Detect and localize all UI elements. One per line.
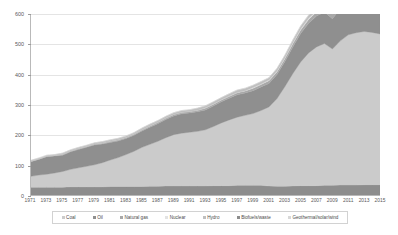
legend-label: Nuclear [170,215,186,220]
x-tick-label: 1981 [104,198,115,204]
x-tick-label: 1999 [247,198,258,204]
x-tick-label: 1973 [40,198,51,204]
y-tick-label: 600 [0,11,24,17]
legend-label: Biofuels/waste [241,215,271,220]
x-tick-label: 1983 [120,198,131,204]
y-tick-label: 400 [0,72,24,78]
legend-label: Hydro [207,215,219,220]
stacked-area-series [31,14,380,195]
x-tick-label: 1985 [136,198,147,204]
legend-item[interactable]: Natural gas [120,215,148,220]
legend-item[interactable]: Biofuels/waste [237,215,271,220]
y-tick-label: 200 [0,132,24,138]
legend-label: Oil [97,215,103,220]
x-tick-label: 2015 [375,198,386,204]
legend-swatch-icon [288,216,291,219]
energy-supply-area-chart: 0100200300400500600 19711973197519771979… [0,0,398,235]
x-tick-label: 1993 [200,198,211,204]
y-tick-mark [28,196,31,197]
x-tick-label: 1975 [56,198,67,204]
legend-item[interactable]: Geothermal/solar/wind [288,215,338,220]
y-tick-label: 300 [0,102,24,108]
chart-legend: CoalOilNatural gasNuclearHydroBiofuels/w… [52,211,348,224]
legend-label: Coal [66,215,75,220]
legend-swatch-icon [93,216,96,219]
legend-item[interactable]: Coal [62,215,76,220]
y-tick-label: 0 [0,193,24,199]
x-tick-label: 1997 [231,198,242,204]
plot-area [30,14,380,196]
y-tick-label: 100 [0,163,24,169]
x-tick-label: 1971 [25,198,36,204]
x-axis: 1971197319751977197919811983198519871989… [30,198,380,208]
x-tick-label: 1987 [152,198,163,204]
legend-swatch-icon [120,216,123,219]
legend-swatch-icon [203,216,206,219]
legend-item[interactable]: Nuclear [165,215,185,220]
legend-label: Geothermal/solar/wind [292,215,338,220]
x-tick-label: 1991 [184,198,195,204]
x-tick-label: 2005 [295,198,306,204]
legend-item[interactable]: Oil [93,215,103,220]
x-tick-label: 2003 [279,198,290,204]
x-tick-label: 2001 [263,198,274,204]
x-tick-label: 1989 [168,198,179,204]
legend-swatch-icon [165,216,168,219]
legend-item[interactable]: Hydro [203,215,220,220]
x-tick-label: 2013 [359,198,370,204]
legend-swatch-icon [62,216,65,219]
x-tick-label: 2011 [343,198,354,204]
x-tick-label: 1979 [88,198,99,204]
y-tick-label: 500 [0,41,24,47]
legend-label: Natural gas [125,215,149,220]
x-tick-label: 2009 [327,198,338,204]
x-tick-label: 1977 [72,198,83,204]
x-tick-label: 2007 [311,198,322,204]
legend-swatch-icon [237,216,240,219]
x-tick-label: 1995 [215,198,226,204]
